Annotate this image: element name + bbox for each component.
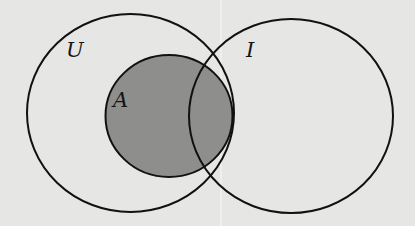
label-u: U (66, 40, 84, 61)
label-a: A (113, 90, 128, 111)
label-i: I (246, 40, 254, 61)
venn-diagram: U A I (0, 0, 415, 226)
venn-svg (0, 0, 415, 226)
set-a-circle (106, 55, 233, 177)
